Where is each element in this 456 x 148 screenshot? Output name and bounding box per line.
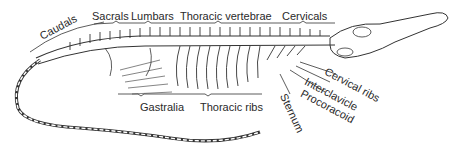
label-gastralia: Gastralia xyxy=(140,102,184,113)
label-cervicals: Cervicals xyxy=(282,11,327,22)
label-thoracic-vertebrae: Thoracic vertebrae xyxy=(180,11,272,22)
label-sacrals: Sacrals xyxy=(92,11,129,22)
skeleton-diagram: Caudals Sacrals Lumbars Thoracic vertebr… xyxy=(0,0,456,148)
label-lumbars: Lumbars xyxy=(131,11,174,22)
label-thoracic-ribs: Thoracic ribs xyxy=(200,102,263,113)
